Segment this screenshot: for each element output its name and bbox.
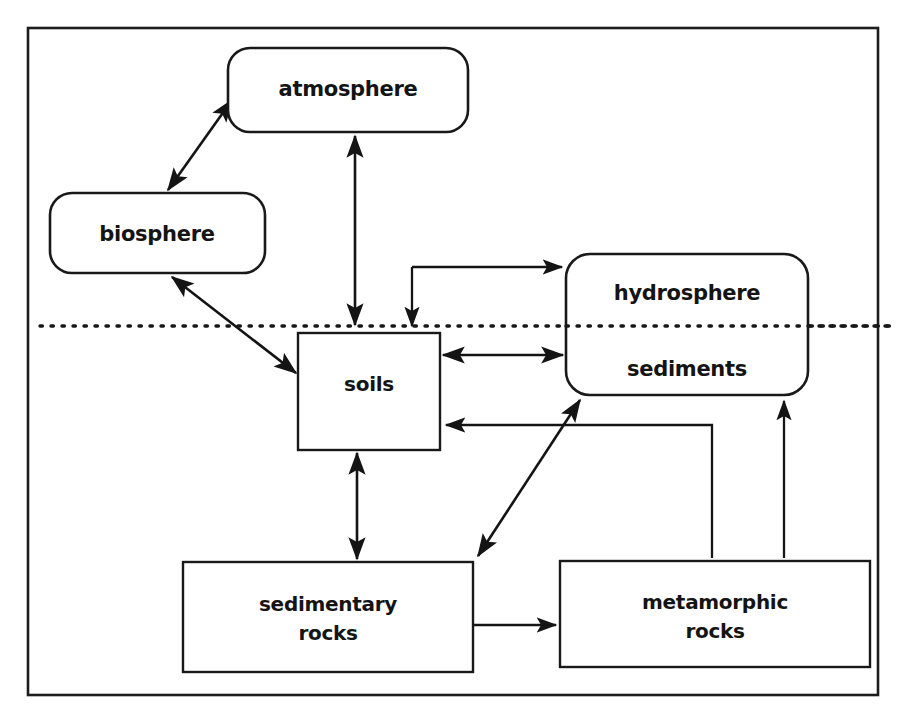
- node-soils[interactable]: soils: [298, 333, 440, 450]
- edge-biosphere-soils: [172, 277, 296, 373]
- soils-label: soils: [344, 372, 394, 396]
- sedimentary-rocks-box[interactable]: [183, 562, 473, 672]
- node-biosphere[interactable]: biosphere: [50, 193, 265, 273]
- metamorphic-rocks-box[interactable]: [560, 561, 870, 667]
- node-sedimentary-rocks[interactable]: sedimentary rocks: [183, 562, 473, 672]
- node-metamorphic-rocks[interactable]: metamorphic rocks: [560, 561, 870, 667]
- sediments-label: sediments: [627, 357, 747, 381]
- earth-system-diagram: atmosphere biosphere hydrosphere sedimen…: [0, 0, 906, 723]
- diagram-canvas: atmosphere biosphere hydrosphere sedimen…: [0, 0, 906, 723]
- metamorphic-rocks-label-line1: metamorphic: [642, 590, 788, 614]
- edge-metamorphic-soils-return: [446, 425, 712, 558]
- sedimentary-rocks-label-line1: sedimentary: [259, 592, 397, 616]
- biosphere-label: biosphere: [99, 222, 214, 246]
- edge-biosphere-atmosphere: [168, 100, 232, 190]
- node-atmosphere[interactable]: atmosphere: [228, 48, 468, 132]
- atmosphere-label: atmosphere: [279, 77, 418, 101]
- sedimentary-rocks-label-line2: rocks: [298, 621, 357, 645]
- edge-sedimentary-sediments-diagonal: [478, 400, 580, 556]
- hydrosphere-label: hydrosphere: [614, 281, 761, 305]
- metamorphic-rocks-label-line2: rocks: [685, 619, 744, 643]
